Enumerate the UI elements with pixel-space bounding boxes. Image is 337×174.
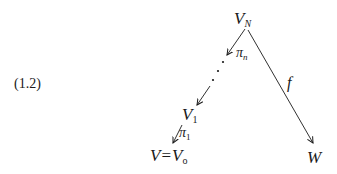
node-v-n-sub: N — [244, 18, 251, 29]
node-v-n-base: V — [234, 9, 244, 28]
node-v-1-base: V — [182, 105, 192, 124]
node-v: V — [150, 146, 160, 165]
label-pi-1-sub: 1 — [186, 132, 191, 142]
node-v-equals-v-o: V=Vo — [150, 147, 187, 166]
label-pi-n-base: π — [236, 45, 243, 60]
node-v-o-sub: o — [182, 155, 187, 166]
ellipsis-dot — [212, 79, 214, 81]
node-v-1: V1 — [182, 106, 197, 125]
label-pi-n-sub: n — [243, 52, 248, 62]
label-pi-1-base: π — [179, 125, 186, 140]
label-pi-n: πn — [236, 46, 248, 62]
label-f-text: f — [287, 74, 291, 91]
ellipsis-dot — [222, 61, 224, 63]
arrow-to-v1 — [197, 86, 210, 105]
node-v-n: VN — [234, 10, 251, 29]
label-f: f — [287, 75, 291, 91]
equation-number: (1.2) — [14, 77, 41, 91]
node-w-base: W — [307, 148, 321, 167]
ellipsis-dot — [217, 70, 219, 72]
node-v-1-sub: 1 — [192, 114, 197, 125]
label-pi-1: π1 — [179, 126, 191, 142]
equals-sign: = — [161, 146, 171, 165]
node-v-o-base: V — [172, 146, 182, 165]
arrow-f — [248, 30, 313, 143]
node-w: W — [307, 149, 321, 166]
